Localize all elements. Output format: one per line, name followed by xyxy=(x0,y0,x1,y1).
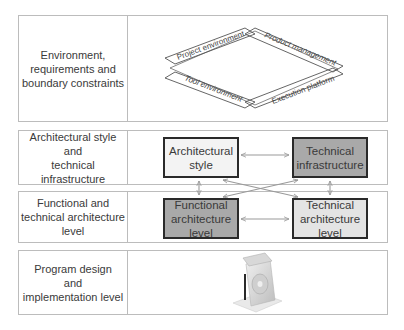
box-architectural-style: Architectural style xyxy=(163,137,239,178)
row-environment: Environment, requirements and boundary c… xyxy=(18,15,388,122)
box-technical-infrastructure: Technical infrastructure xyxy=(292,137,368,178)
box-technical-architecture-level: Technical architecture level xyxy=(292,198,368,239)
row-label-program-design: Program design and implementation level xyxy=(19,251,128,314)
row-label-architectural-style: Architectural style and technical infras… xyxy=(19,131,128,184)
row-label-functional-technical: Functional and technical architecture le… xyxy=(19,192,128,242)
row-label-environment: Environment, requirements and boundary c… xyxy=(19,16,128,121)
box-functional-architecture-level: Functional architecture level xyxy=(163,198,239,239)
row-program-design: Program design and implementation level xyxy=(18,250,388,315)
